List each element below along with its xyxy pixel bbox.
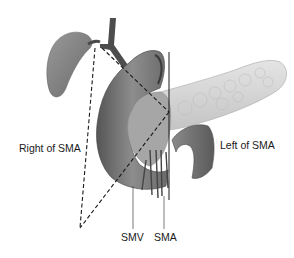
jejunum: [172, 125, 214, 179]
label-right-of-sma: Right of SMA: [19, 143, 81, 154]
label-sma: SMA: [154, 232, 177, 243]
bile-duct: [100, 18, 130, 70]
anatomy-illustration: [0, 0, 294, 258]
label-smv: SMV: [121, 232, 144, 243]
label-left-of-sma: Left of SMA: [220, 140, 275, 151]
